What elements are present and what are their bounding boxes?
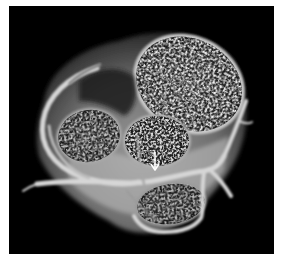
cardiac-ct-render <box>9 6 274 254</box>
valve-center <box>123 114 191 168</box>
medical-image-frame: 3D volume-rendered cardiac CT of the hea… <box>9 6 274 254</box>
